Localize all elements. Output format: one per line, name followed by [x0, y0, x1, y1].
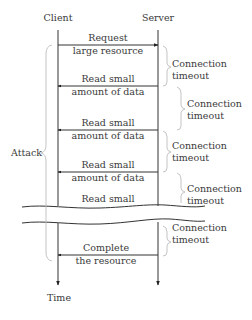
attack-brace — [41, 45, 52, 261]
read-label-2-line2: amount of data — [72, 130, 145, 141]
time-label: Time — [47, 292, 71, 303]
read-label-3-line1: Read small — [81, 159, 134, 170]
complete-label-line1: Complete — [83, 242, 130, 253]
attack-label: Attack — [10, 147, 42, 158]
read-label-1-line2: amount of data — [72, 86, 145, 97]
timeout-5-line1: Connection — [172, 222, 227, 233]
timeout-brace-1 — [163, 46, 171, 86]
timeout-2-line1: Connection — [187, 98, 242, 109]
client-label: Client — [44, 12, 73, 23]
timeout-1-line1: Connection — [172, 58, 227, 69]
complete-label-line2: the resource — [76, 255, 137, 266]
timeout-brace-4 — [177, 173, 185, 203]
timeout-4-line1: Connection — [187, 183, 242, 194]
timeout-4-line2: timeout — [187, 195, 224, 206]
read-label-2-line1: Read small — [81, 117, 134, 128]
request-label-line1: Request — [88, 32, 127, 43]
timeout-1-line2: timeout — [172, 70, 209, 81]
timeout-2-line2: timeout — [187, 110, 224, 121]
request-label-line2: large resource — [73, 45, 144, 56]
read-label-1-line1: Read small — [81, 73, 134, 84]
slow-read-attack-diagram: Client Server Request large resource Rea… — [0, 0, 252, 320]
read-label-3-line2: amount of data — [72, 172, 145, 183]
timeout-brace-2 — [177, 87, 185, 130]
timeout-brace-3 — [163, 131, 171, 172]
timeout-5-line2: timeout — [172, 234, 209, 245]
timeout-3-line1: Connection — [172, 140, 227, 151]
read-label-4-line1: Read small — [81, 193, 134, 204]
server-label: Server — [142, 12, 175, 23]
break-line-top — [22, 205, 205, 208]
timeout-brace-5 — [163, 226, 171, 256]
timeout-3-line2: timeout — [172, 152, 209, 163]
